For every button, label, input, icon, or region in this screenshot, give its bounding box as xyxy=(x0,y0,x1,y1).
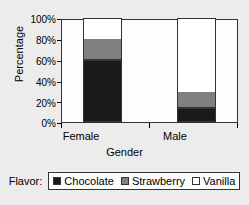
segment-female-vanilla[interactable] xyxy=(84,19,121,39)
legend-item-strawberry[interactable]: Strawberry xyxy=(121,175,185,187)
plot-area xyxy=(61,19,238,123)
y-tick-label-40: 40% xyxy=(36,78,56,88)
legend-swatch-chocolate-icon xyxy=(53,177,61,185)
y-tick-label-60: 60% xyxy=(36,57,56,67)
segment-male-strawberry[interactable] xyxy=(178,92,215,107)
segment-male-vanilla[interactable] xyxy=(178,19,215,92)
legend-swatch-strawberry-icon xyxy=(121,177,129,185)
legend-box: Chocolate Strawberry Vanilla xyxy=(48,172,240,190)
bar-female[interactable] xyxy=(83,18,122,122)
y-tick-label-80: 80% xyxy=(36,36,56,46)
segment-male-chocolate[interactable] xyxy=(178,108,215,121)
legend-label-vanilla: Vanilla xyxy=(203,175,235,187)
legend-label-strawberry: Strawberry xyxy=(132,175,185,187)
y-tick-label-20: 20% xyxy=(36,99,56,109)
x-tickmark-left xyxy=(61,123,62,128)
legend-item-vanilla[interactable]: Vanilla xyxy=(192,175,235,187)
legend-swatch-vanilla-icon xyxy=(192,177,200,185)
legend-title: Flavor: xyxy=(9,175,43,187)
x-axis-title: Gender xyxy=(0,146,249,158)
segment-female-chocolate[interactable] xyxy=(84,60,121,121)
x-category-female: Female xyxy=(46,130,116,142)
segment-female-strawberry[interactable] xyxy=(84,39,121,59)
stacked-bar-chart: Percentage 100% 80% 60% 40% 20% 0% xyxy=(0,0,249,205)
y-tick-label-100: 100% xyxy=(30,15,56,25)
legend: Flavor: Chocolate Strawberry Vanilla xyxy=(0,172,249,190)
legend-item-chocolate[interactable]: Chocolate xyxy=(53,175,114,187)
x-category-male: Male xyxy=(140,130,210,142)
x-axis-tickmarks xyxy=(61,123,238,129)
legend-label-chocolate: Chocolate xyxy=(64,175,114,187)
x-tickmark-right xyxy=(237,123,238,128)
x-tickmark-mid xyxy=(149,123,150,128)
y-tick-label-0: 0% xyxy=(42,119,56,129)
bar-male[interactable] xyxy=(177,18,216,122)
